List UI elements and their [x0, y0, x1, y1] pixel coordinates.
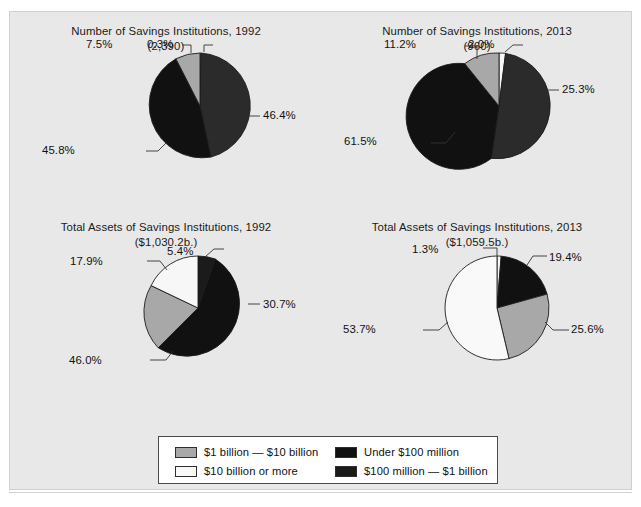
pie-svg-number-1992 [144, 50, 256, 162]
legend-item-100-million-to-1-billion[interactable]: $100 million — $1 billion [335, 462, 488, 480]
pie-label-3: 45.8% [42, 144, 75, 156]
legend-swatch-1-to-10-billion [175, 447, 197, 458]
pie-label-0: 1.3% [412, 243, 438, 255]
bottom-rule [9, 492, 632, 493]
chart-number-1992: Number of Savings Institutions, 1992 (2,… [10, 20, 322, 225]
pie-label-1: 17.9% [70, 255, 103, 267]
pie-svg-assets-1992 [144, 254, 252, 362]
legend: $1 billion — $10 billion Under $100 mill… [158, 436, 498, 484]
pie-number-1992 [144, 50, 256, 162]
legend-label-1-to-10-billion: $1 billion — $10 billion [204, 446, 318, 458]
legend-swatch-10-billion-or-more [175, 466, 197, 477]
pie-label-2: 30.7% [263, 298, 296, 310]
chart-subtitle-line2: ($1,030.2b.) [10, 235, 322, 250]
pie-svg-number-2013 [443, 50, 555, 162]
legend-item-1-to-10-billion[interactable]: $1 billion — $10 billion [175, 443, 318, 461]
pie-label-3: 61.5% [344, 135, 377, 147]
pie-label-2: 25.3% [562, 83, 595, 95]
legend-item-under-100-million[interactable]: Under $100 million [335, 443, 459, 461]
legend-label-under-100-million: Under $100 million [364, 446, 459, 458]
pie-label-2: 25.6% [571, 323, 604, 335]
chart-title-line1: Number of Savings Institutions, 1992 [71, 25, 261, 37]
legend-swatch-100-million-to-1-billion [335, 466, 357, 477]
pie-number-2013 [443, 50, 555, 162]
chart-assets-1992: Total Assets of Savings Institutions, 19… [10, 216, 322, 428]
legend-swatch-under-100-million [335, 447, 357, 458]
chart-title-line1: Total Assets of Savings Institutions, 20… [372, 221, 583, 233]
chart-title-assets-2013: Total Assets of Savings Institutions, 20… [321, 220, 633, 249]
pie-assets-1992 [144, 254, 252, 362]
pie-svg-assets-2013 [443, 254, 551, 362]
chart-title-line1: Number of Savings Institutions, 2013 [382, 25, 572, 37]
pie-label-3: 53.7% [343, 323, 376, 335]
pie-label-0: 5.4% [167, 245, 193, 257]
chart-assets-2013: Total Assets of Savings Institutions, 20… [321, 216, 633, 428]
chart-subtitle-line2: ($1,059.5b.) [321, 235, 633, 250]
figure-panel: Number of Savings Institutions, 1992 (2,… [9, 11, 632, 490]
chart-title-assets-1992: Total Assets of Savings Institutions, 19… [10, 220, 322, 249]
pie-label-0: 7.5% [86, 38, 112, 50]
pie-label-1: 0.3% [147, 38, 173, 50]
pie-label-2: 46.4% [263, 109, 296, 121]
pie-label-1: 19.4% [549, 251, 582, 263]
pie-label-3: 46.0% [69, 354, 102, 366]
pie-label-1: 2.0% [468, 38, 494, 50]
pie-label-0: 11.2% [384, 38, 416, 50]
pie-assets-2013 [443, 254, 551, 362]
legend-label-10-billion-or-more: $10 billion or more [204, 465, 298, 477]
legend-label-100-million-to-1-billion: $100 million — $1 billion [364, 465, 488, 477]
chart-title-line1: Total Assets of Savings Institutions, 19… [61, 221, 272, 233]
legend-item-10-billion-or-more[interactable]: $10 billion or more [175, 462, 298, 480]
chart-number-2013: Number of Savings Institutions, 2013 (96… [321, 20, 633, 225]
